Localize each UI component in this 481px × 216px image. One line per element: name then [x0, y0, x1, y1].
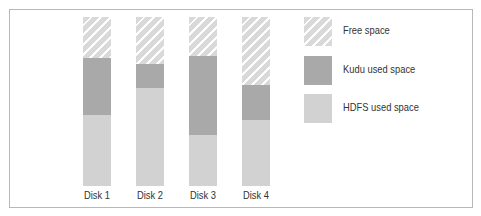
bar-segment-hdfs: [136, 88, 164, 186]
bar-segment-kudu: [189, 56, 217, 135]
bar-segment-kudu: [136, 64, 164, 88]
bar-segment-hdfs: [242, 120, 270, 186]
bar-segment-free: [136, 17, 164, 64]
x-label-disk-4: Disk 4: [235, 189, 278, 201]
x-label-disk-3: Disk 3: [182, 189, 225, 201]
bar-segment-free: [242, 17, 270, 85]
bar-disk-2: [136, 17, 164, 186]
bar-segment-hdfs: [83, 115, 111, 186]
x-label-disk-2: Disk 2: [129, 189, 172, 201]
legend-label-hdfs: HDFS used space: [343, 101, 419, 113]
bar-segment-kudu: [242, 85, 270, 120]
bar-segment-hdfs: [189, 135, 217, 186]
bar-segment-kudu: [83, 58, 111, 115]
bar-disk-1: [83, 17, 111, 186]
legend-swatch-free: [304, 17, 332, 46]
bar-disk-3: [189, 17, 217, 186]
bar-disk-4: [242, 17, 270, 186]
bar-segment-free: [83, 17, 111, 58]
legend-swatch-kudu: [304, 56, 332, 85]
legend-label-kudu: Kudu used space: [343, 63, 415, 75]
x-label-disk-1: Disk 1: [76, 189, 119, 201]
legend-swatch-hdfs: [304, 94, 332, 123]
bar-segment-free: [189, 17, 217, 56]
legend-label-free: Free space: [343, 24, 390, 36]
